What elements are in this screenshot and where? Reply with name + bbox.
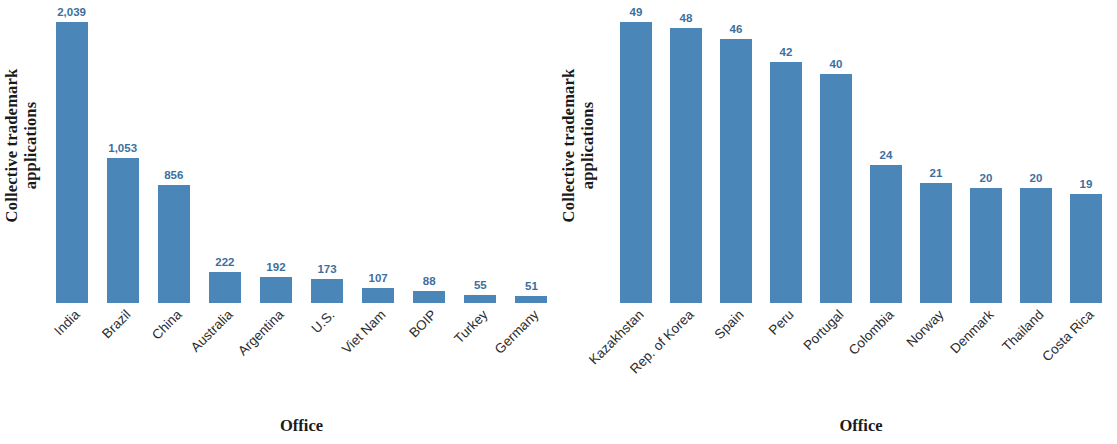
bar-value-label: 107 bbox=[369, 273, 388, 285]
x-tick-label-turkey: Turkey bbox=[452, 307, 491, 346]
x-tick-label-australia: Australia bbox=[188, 307, 236, 355]
bar-value-label: 20 bbox=[1030, 173, 1043, 185]
bar-thailand[interactable] bbox=[1020, 188, 1052, 303]
bar-group: 19 bbox=[1061, 22, 1111, 303]
bar-portugal[interactable] bbox=[820, 74, 852, 303]
bar-group: 48 bbox=[661, 22, 711, 303]
bar-australia[interactable] bbox=[209, 272, 241, 303]
x-tick-label-china: China bbox=[149, 307, 185, 343]
x-tick-label-portugal: Portugal bbox=[800, 307, 846, 353]
y-axis-title-left-line2: applications bbox=[22, 68, 41, 222]
bar-value-label: 222 bbox=[215, 257, 234, 269]
bar-viet-nam[interactable] bbox=[362, 288, 394, 303]
bar-group: 1,053 bbox=[97, 22, 148, 303]
x-tick-label-u-s: U.S. bbox=[308, 307, 337, 336]
bar-value-label: 192 bbox=[266, 262, 285, 274]
bar-value-label: 20 bbox=[980, 173, 993, 185]
x-tick-label-peru: Peru bbox=[766, 307, 797, 338]
x-tick-label-costa-rica: Costa Rica bbox=[1039, 307, 1096, 364]
bar-value-label: 173 bbox=[317, 264, 336, 276]
x-tick-label-germany: Germany bbox=[492, 307, 542, 357]
bar-colombia[interactable] bbox=[870, 165, 902, 303]
bar-group: 856 bbox=[148, 22, 199, 303]
bar-group: 46 bbox=[711, 22, 761, 303]
bar-group: 173 bbox=[302, 22, 353, 303]
bar-value-label: 19 bbox=[1080, 179, 1093, 191]
bar-spain[interactable] bbox=[720, 39, 752, 303]
bar-group: 42 bbox=[761, 22, 811, 303]
bar-kazakhstan[interactable] bbox=[620, 22, 652, 303]
chart-panel-left: Collective trademark applications 2,0391… bbox=[0, 0, 557, 444]
bar-argentina[interactable] bbox=[260, 277, 292, 303]
bar-value-label: 55 bbox=[474, 280, 487, 292]
bar-value-label: 49 bbox=[630, 7, 643, 19]
bar-peru[interactable] bbox=[770, 62, 802, 303]
bar-group: 40 bbox=[811, 22, 861, 303]
x-tick-label-brazil: Brazil bbox=[99, 307, 133, 341]
bar-group: 21 bbox=[911, 22, 961, 303]
x-tick-label-argentina: Argentina bbox=[235, 307, 286, 358]
bar-value-label: 2,039 bbox=[57, 7, 86, 19]
x-tick-label-spain: Spain bbox=[712, 307, 747, 342]
bar-group: 88 bbox=[404, 22, 455, 303]
bar-group: 51 bbox=[506, 22, 557, 303]
x-tick-label-boip: BOIP bbox=[406, 307, 439, 340]
bar-boip[interactable] bbox=[413, 291, 445, 303]
plot-area-right: 49484642402421202019 bbox=[611, 22, 1111, 303]
bar-group: 20 bbox=[1011, 22, 1061, 303]
bar-value-label: 40 bbox=[830, 59, 843, 71]
bar-value-label: 51 bbox=[525, 281, 538, 293]
y-axis-title-right-line1: Collective trademark bbox=[560, 68, 579, 222]
bar-turkey[interactable] bbox=[464, 295, 496, 303]
x-axis-title-left: Office bbox=[46, 416, 557, 436]
bar-group: 20 bbox=[961, 22, 1011, 303]
bar-value-label: 42 bbox=[780, 47, 793, 59]
x-tick-label-viet-nam: Viet Nam bbox=[339, 307, 389, 357]
x-axis-title-right: Office bbox=[611, 416, 1111, 436]
plot-area-left: 2,0391,053856222192173107885551 bbox=[46, 22, 557, 303]
bar-value-label: 21 bbox=[930, 168, 943, 180]
x-tick-label-norway: Norway bbox=[904, 307, 947, 350]
bar-group: 107 bbox=[353, 22, 404, 303]
bar-value-label: 88 bbox=[423, 276, 436, 288]
bar-value-label: 46 bbox=[730, 24, 743, 36]
x-tick-label-colombia: Colombia bbox=[846, 307, 897, 358]
bar-germany[interactable] bbox=[515, 296, 547, 303]
dual-bar-chart-figure: Collective trademark applications 2,0391… bbox=[0, 0, 1117, 444]
bar-value-label: 856 bbox=[164, 170, 183, 182]
y-axis-title-left-line1: Collective trademark bbox=[3, 68, 22, 222]
bar-india[interactable] bbox=[56, 22, 88, 303]
chart-panel-right: Collective trademark applications 494846… bbox=[557, 0, 1117, 444]
y-axis-title-right-line2: applications bbox=[579, 68, 598, 222]
bar-denmark[interactable] bbox=[970, 188, 1002, 303]
x-tick-label-india: India bbox=[51, 307, 82, 338]
bar-group: 2,039 bbox=[46, 22, 97, 303]
bar-group: 24 bbox=[861, 22, 911, 303]
x-tick-label-denmark: Denmark bbox=[947, 307, 996, 356]
bar-value-label: 1,053 bbox=[108, 143, 137, 155]
bar-brazil[interactable] bbox=[107, 158, 139, 303]
bar-group: 49 bbox=[611, 22, 661, 303]
bar-group: 222 bbox=[199, 22, 250, 303]
bar-group: 55 bbox=[455, 22, 506, 303]
x-tick-label-thailand: Thailand bbox=[999, 307, 1046, 354]
bar-value-label: 24 bbox=[880, 150, 893, 162]
bar-costa-rica[interactable] bbox=[1070, 194, 1102, 303]
bar-group: 192 bbox=[250, 22, 301, 303]
bar-rep-of-korea[interactable] bbox=[670, 28, 702, 303]
y-axis-title-right: Collective trademark applications bbox=[557, 0, 601, 290]
bar-norway[interactable] bbox=[920, 183, 952, 303]
y-axis-title-left: Collective trademark applications bbox=[0, 0, 44, 290]
bar-china[interactable] bbox=[158, 185, 190, 303]
bar-u-s[interactable] bbox=[311, 279, 343, 303]
bar-value-label: 48 bbox=[680, 13, 693, 25]
